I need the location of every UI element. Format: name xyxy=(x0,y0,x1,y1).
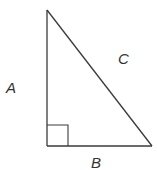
label-a: A xyxy=(5,79,16,96)
hypotenuse-c-line xyxy=(47,10,152,146)
label-c: C xyxy=(118,50,129,67)
right-angle-marker xyxy=(47,125,68,146)
label-b: B xyxy=(91,154,101,170)
right-triangle-diagram: A B C xyxy=(0,0,157,170)
